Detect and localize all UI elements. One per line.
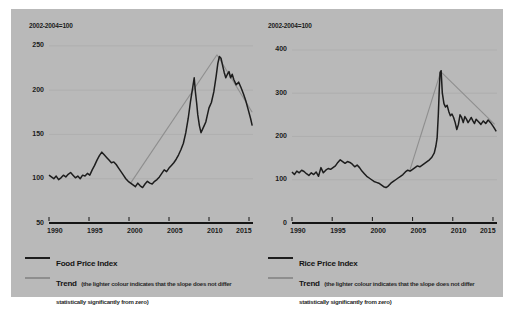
x-axis-tick-label: 1995 (87, 227, 103, 234)
x-axis-tick-label: 2005 (167, 227, 183, 234)
legend-index-label: Food Price Index (56, 259, 117, 268)
data-series-line (292, 71, 496, 188)
figure-panel: 2002-2004=100 Food Price Index Trend (th… (11, 9, 503, 297)
y-axis-tick-label: 300 (254, 89, 287, 96)
y-axis-tick-label: 200 (11, 86, 44, 93)
legend-line-swatch-icon (268, 257, 293, 259)
legend-trend-caption: (the lighter colour indicates that the s… (56, 280, 231, 305)
legend-trend-swatch-icon (25, 277, 50, 279)
x-axis-tick-label: 1995 (330, 227, 346, 234)
x-axis-tick-label: 2015 (236, 227, 252, 234)
trend-line (409, 72, 440, 172)
legend-index-label: Rice Price Index (299, 259, 358, 268)
x-axis-tick-label: 2005 (411, 227, 427, 234)
x-axis-tick-label: 2000 (127, 227, 143, 234)
x-axis-tick-label: 2015 (480, 227, 496, 234)
chart-rice-price-index: 2002-2004=100 Rice Price Index Trend (th… (254, 9, 503, 297)
legend-row-index: Rice Price Index (268, 252, 498, 270)
chart-left-legend: Food Price Index Trend (the lighter colo… (25, 252, 255, 310)
x-axis-tick-label: 2010 (207, 227, 223, 234)
data-series-line (49, 56, 252, 187)
y-axis-tick-label: 200 (254, 132, 287, 139)
figure-container: 2002-2004=100 Food Price Index Trend (th… (0, 0, 523, 311)
x-axis-tick-label: 1990 (290, 227, 306, 234)
x-axis-tick-label: 2000 (370, 227, 386, 234)
y-axis-tick-label: 50 (11, 219, 44, 226)
legend-line-swatch-icon (25, 257, 50, 259)
chart-right-legend: Rice Price Index Trend (the lighter colo… (268, 252, 498, 310)
y-axis-tick-label: 0 (254, 219, 287, 226)
chart-right-plot (254, 9, 503, 252)
x-axis-tick-label: 2010 (451, 227, 467, 234)
chart-food-price-index: 2002-2004=100 Food Price Index Trend (th… (11, 9, 259, 297)
legend-trend-label: Trend (56, 279, 77, 288)
y-axis-tick-label: 100 (254, 175, 287, 182)
x-axis-tick-label: 1990 (47, 227, 63, 234)
legend-row-trend: Trend (the lighter colour indicates that… (268, 272, 498, 308)
legend-row-index: Food Price Index (25, 252, 255, 270)
y-axis-tick-label: 150 (11, 130, 44, 137)
legend-trend-label: Trend (299, 279, 320, 288)
chart-left-plot (11, 9, 259, 252)
trend-line (441, 72, 495, 125)
y-axis-tick-label: 100 (11, 174, 44, 181)
legend-row-trend: Trend (the lighter colour indicates that… (25, 272, 255, 308)
y-axis-tick-label: 400 (254, 45, 287, 52)
legend-trend-swatch-icon (268, 277, 293, 279)
y-axis-tick-label: 250 (11, 41, 44, 48)
legend-trend-caption: (the lighter colour indicates that the s… (299, 280, 474, 305)
